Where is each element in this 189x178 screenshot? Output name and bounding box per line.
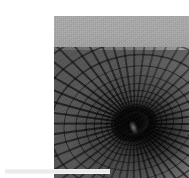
backdrop-grain	[54, 16, 189, 48]
mesh-cone	[54, 47, 189, 178]
page-root	[0, 0, 189, 178]
vortex-photograph	[54, 16, 189, 178]
caption-text	[6, 168, 110, 174]
backdrop-band	[54, 16, 189, 48]
